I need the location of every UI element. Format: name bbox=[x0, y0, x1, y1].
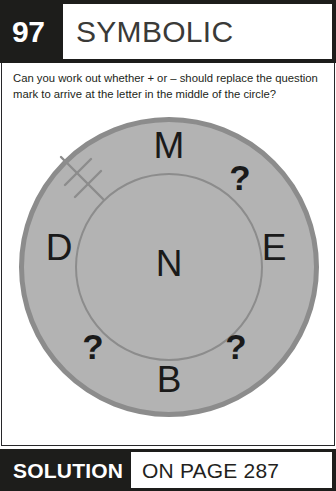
ring-letter-upper-right: ? bbox=[200, 159, 280, 196]
puzzle-number: 97 bbox=[12, 12, 60, 52]
ring-letter-lower-left: ? bbox=[53, 328, 133, 365]
page-footer: SOLUTION ON PAGE 287 bbox=[0, 449, 336, 491]
page-title: SYMBOLIC bbox=[76, 4, 233, 59]
puzzle-body: Can you work out whether + or – should r… bbox=[1, 63, 335, 446]
ring-letter-lower-right: ? bbox=[196, 328, 276, 365]
page-header: 97 SYMBOLIC bbox=[0, 0, 336, 63]
circle-diagram: M ? E ? B ? D N bbox=[19, 117, 319, 417]
ring-letter-bottom: B bbox=[129, 361, 209, 398]
puzzle-title-box: SYMBOLIC bbox=[63, 4, 332, 59]
ring-letter-left: D bbox=[19, 229, 99, 266]
solution-page-reference: ON PAGE 287 bbox=[142, 452, 279, 488]
question-text: Can you work out whether + or – should r… bbox=[13, 71, 321, 102]
solution-page-box: ON PAGE 287 bbox=[131, 452, 332, 488]
ring-letter-right: E bbox=[234, 229, 314, 266]
puzzle-page: 97 SYMBOLIC Can you work out whether + o… bbox=[0, 0, 336, 491]
solution-label: SOLUTION bbox=[13, 449, 123, 491]
ring-letter-top: M bbox=[129, 127, 209, 164]
center-letter: N bbox=[129, 245, 209, 282]
